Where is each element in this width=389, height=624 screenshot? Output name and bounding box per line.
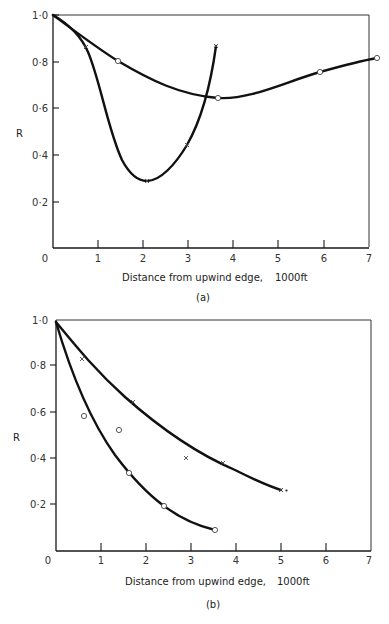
panel-b-curve-crosses <box>56 322 281 490</box>
panel-b-y-ticks <box>50 365 56 504</box>
panel-b-y-label: R <box>13 432 20 443</box>
x-tick-label: 6 <box>321 253 327 264</box>
y-tick-label: 0·6 <box>32 103 48 114</box>
figure: 1·0 0·8 0·6 0·4 0·2 R 0 1 2 3 4 5 6 7 Di… <box>0 0 389 624</box>
panel-a-markers <box>84 44 380 183</box>
panel-b-x-label: Distance from upwind edge, <box>125 576 266 587</box>
x-tick-label: 7 <box>366 555 372 566</box>
panel-a-y-label: R <box>16 128 23 139</box>
dot-marker <box>285 489 287 491</box>
y-tick-label: 0·8 <box>30 360 46 371</box>
y-tick-label: 1·0 <box>32 10 48 21</box>
y-tick-label: 0·4 <box>32 150 48 161</box>
y-tick-label: 0·6 <box>30 407 46 418</box>
x-tick-label: 5 <box>275 253 281 264</box>
panel-b-x-unit: 1000ft <box>277 576 310 587</box>
x-tick-label: 4 <box>230 253 236 264</box>
panel-b-y-tick-labels: 1·0 0·8 0·6 0·4 0·2 <box>30 315 48 510</box>
x-tick-label: 2 <box>143 555 149 566</box>
circle-marker <box>116 427 121 432</box>
panel-b-x-tick-labels: 0 1 2 3 4 5 6 7 <box>45 555 372 566</box>
circle-marker <box>126 470 131 475</box>
cross-marker <box>184 456 188 460</box>
panel-b-curve-circles <box>56 322 215 530</box>
x-tick-label: 4 <box>233 555 239 566</box>
y-tick-label: 1·0 <box>32 315 48 326</box>
x-tick-label: 3 <box>185 253 191 264</box>
x-tick-label: 3 <box>188 555 194 566</box>
x-tick-label: 1 <box>95 253 101 264</box>
panel-a-y-tick-labels: 1·0 0·8 0·6 0·4 0·2 <box>32 10 48 208</box>
panel-b-caption: (b) <box>206 599 220 610</box>
circle-marker <box>81 413 86 418</box>
panel-a-x-tick-labels: 0 1 2 3 4 5 6 7 <box>42 253 372 264</box>
panel-a: 1·0 0·8 0·6 0·4 0·2 R 0 1 2 3 4 5 6 7 Di… <box>16 10 380 303</box>
panel-a-curve-crosses <box>53 15 216 181</box>
x-tick-label: 6 <box>323 555 329 566</box>
x-tick-label: 0 <box>42 253 48 264</box>
x-tick-label: 7 <box>366 253 372 264</box>
panel-b: 1·0 0·8 0·6 0·4 0·2 R 0 1 2 3 4 5 6 7 Di… <box>13 315 372 610</box>
panel-a-caption: (a) <box>196 292 210 303</box>
panel-a-x-ticks <box>98 240 324 248</box>
y-tick-label: 0·2 <box>32 197 48 208</box>
panel-a-x-unit: 1000ft <box>275 272 308 283</box>
y-tick-label: 0·8 <box>32 57 48 68</box>
x-tick-label: 5 <box>278 555 284 566</box>
x-tick-label: 2 <box>140 253 146 264</box>
circle-marker <box>161 503 166 508</box>
panel-b-x-ticks <box>101 543 326 551</box>
panel-a-x-label: Distance from upwind edge, <box>122 272 263 283</box>
circle-marker <box>215 95 220 100</box>
panel-a-y-ticks <box>53 15 59 202</box>
cross-marker <box>80 357 84 361</box>
x-tick-label: 0 <box>45 555 51 566</box>
x-tick-label: 1 <box>98 555 104 566</box>
circle-marker <box>212 527 217 532</box>
y-tick-label: 0·4 <box>30 453 46 464</box>
circle-marker <box>115 58 120 63</box>
circle-marker <box>374 55 379 60</box>
y-tick-label: 0·2 <box>30 499 46 510</box>
circle-marker <box>317 69 322 74</box>
